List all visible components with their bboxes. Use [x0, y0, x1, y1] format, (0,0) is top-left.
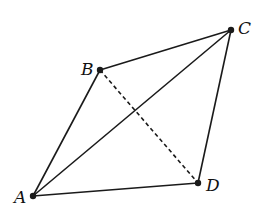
label-a: A [12, 187, 26, 207]
vertex-b-dot [97, 67, 103, 73]
label-b: B [80, 59, 94, 79]
quadrilateral-diagram: A B C D [0, 0, 261, 210]
label-d: D [205, 175, 220, 195]
vertex-a-dot [30, 193, 36, 199]
solid-edges [33, 30, 231, 196]
segment-bc [100, 30, 231, 70]
vertex-d-dot [195, 180, 201, 186]
segment-da [33, 183, 198, 196]
segment-ab [33, 70, 100, 196]
label-c: C [238, 18, 251, 38]
vertex-c-dot [228, 27, 234, 33]
